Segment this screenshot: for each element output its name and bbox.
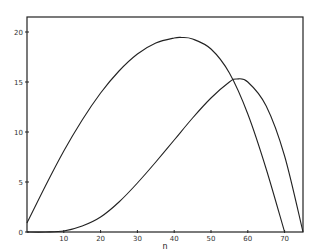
y-tick-label: 10 — [14, 129, 23, 137]
y-tick-label: 15 — [14, 79, 23, 87]
y-tick-label: 0 — [19, 229, 23, 237]
x-tick-label: 10 — [59, 235, 68, 243]
line-chart: 05101520 10203040506070 n — [0, 0, 318, 252]
plot-frame — [27, 17, 303, 232]
y-tick-label: 5 — [19, 179, 23, 187]
x-tick-label: 60 — [243, 235, 252, 243]
series-line-curve-1 — [27, 37, 285, 232]
x-tick-label: 50 — [207, 235, 216, 243]
x-axis-label: n — [162, 242, 167, 251]
x-tick-label: 40 — [170, 235, 179, 243]
x-tick-label: 30 — [133, 235, 142, 243]
x-tick-label: 70 — [280, 235, 289, 243]
series-group — [27, 37, 303, 232]
x-tick-label: 20 — [96, 235, 105, 243]
y-tick-label: 20 — [14, 29, 23, 37]
